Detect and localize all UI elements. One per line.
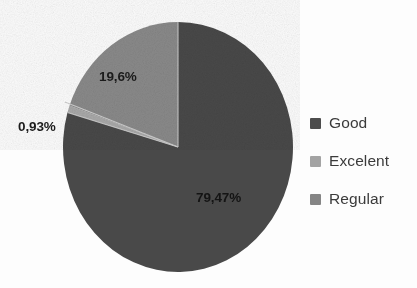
legend-swatch-excelent-icon	[310, 156, 321, 167]
legend-label-regular: Regular	[329, 190, 384, 208]
legend-label-good: Good	[329, 114, 367, 132]
legend-item-excelent[interactable]: Excelent	[310, 142, 414, 180]
legend-label-excelent: Excelent	[329, 152, 389, 170]
legend-swatch-good-icon	[310, 118, 321, 129]
legend-item-good[interactable]: Good	[310, 104, 414, 142]
pie-label-good: 79,47%	[196, 190, 241, 205]
pie-chart-svg	[63, 22, 293, 272]
pie-label-excelent: 0,93%	[18, 119, 56, 134]
chart-legend: Good Excelent Regular	[310, 104, 414, 218]
legend-item-regular[interactable]: Regular	[310, 180, 414, 218]
pie-label-regular: 19,6%	[99, 69, 137, 84]
pie-chart-plot-area	[63, 22, 293, 272]
pie-chart-figure: 19,6% 0,93% 79,47% Good Excelent Regular	[0, 0, 417, 288]
legend-swatch-regular-icon	[310, 194, 321, 205]
